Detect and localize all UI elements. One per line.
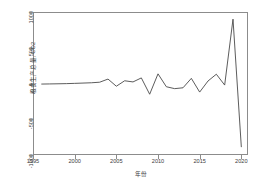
x-tick-label: 2005 <box>99 158 133 164</box>
data-series-line <box>41 19 241 147</box>
y-axis-label: 粮食生产总量, CO2 <box>29 8 37 128</box>
y-tick: -500 <box>0 115 31 123</box>
x-tick-label: 2015 <box>183 158 217 164</box>
y-tick: 1000 <box>0 8 31 16</box>
x-tick-label: 2000 <box>58 158 92 164</box>
x-tick-label: 2020 <box>224 158 258 164</box>
x-tick-label: 1995 <box>16 158 50 164</box>
x-tick-label: 2010 <box>141 158 175 164</box>
y-tick: 0 <box>0 80 31 88</box>
x-axis-label: 年份 <box>33 170 248 178</box>
line-chart-plot <box>33 12 248 155</box>
chart-screenshot: 10005000-500-1000 1995200020052010201520… <box>0 0 259 188</box>
y-tick: 500 <box>0 44 31 52</box>
